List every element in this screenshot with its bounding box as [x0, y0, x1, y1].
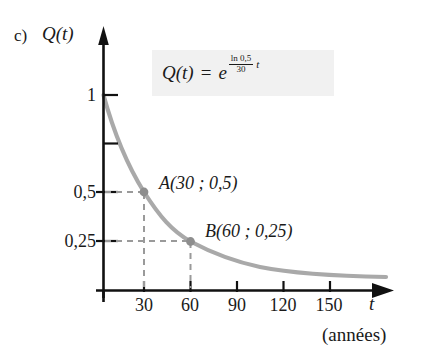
- x-tick-label-90: 90: [217, 296, 257, 314]
- x-axis-title: t: [369, 294, 374, 313]
- guide-lines-point-b: [105, 241, 191, 288]
- formula-exponent-denominator: 30: [235, 65, 248, 74]
- x-tick-label-30: 30: [124, 296, 164, 314]
- y-axis-ticks: [96, 95, 118, 241]
- data-point-b: [186, 237, 195, 246]
- point-label-b: B(60 ; 0,25): [205, 222, 292, 240]
- formula-base: e: [218, 62, 226, 84]
- decay-curve: [104, 95, 387, 277]
- y-axis: [98, 26, 109, 298]
- y-tick-label-0-25: 0,25: [22, 232, 96, 250]
- x-tick-label-120: 120: [261, 296, 305, 314]
- x-tick-label-150: 150: [307, 296, 351, 314]
- formula-exponent-variable: t: [256, 58, 259, 70]
- formula-exponent-numerator: ln 0,5: [229, 54, 254, 63]
- formula-lhs: Q(t): [162, 62, 194, 84]
- formula-expression: Q(t) = e ln 0,5 30 t: [162, 60, 259, 86]
- y-tick-label-1: 1: [60, 86, 96, 104]
- y-tick-label-0-5: 0,5: [34, 183, 96, 201]
- formula-equals: =: [201, 62, 212, 84]
- point-label-a: A(30 ; 0,5): [159, 174, 237, 192]
- item-marker: c): [14, 27, 27, 44]
- data-point-a: [140, 188, 149, 197]
- formula-exponent-fraction: ln 0,5 30: [229, 54, 254, 74]
- x-axis-unit-caption: (années): [322, 325, 386, 344]
- y-axis-title: Q(t): [42, 24, 74, 43]
- x-tick-label-60: 60: [170, 296, 210, 314]
